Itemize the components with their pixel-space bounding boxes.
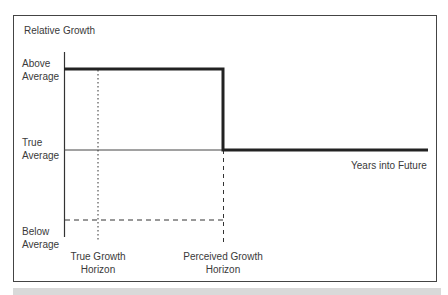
true-horizon-label-2: Horizon	[58, 263, 138, 276]
x-axis-label: Years into Future	[351, 159, 427, 172]
true-horizon-label-1: True Growth	[58, 250, 138, 263]
growth-path	[64, 69, 428, 150]
perceived-horizon-label-2: Horizon	[173, 263, 273, 276]
y-label-above-2: Average	[22, 70, 59, 83]
y-label-below-2: Average	[22, 238, 59, 251]
y-label-below-1: Below	[22, 225, 49, 238]
y-label-true-2: Average	[22, 149, 59, 162]
y-label-true-1: True	[22, 136, 42, 149]
y-label-above-1: Above	[22, 57, 50, 70]
perceived-horizon-label-1: Perceived Growth	[173, 250, 273, 263]
diagram-title: Relative Growth	[24, 24, 95, 37]
